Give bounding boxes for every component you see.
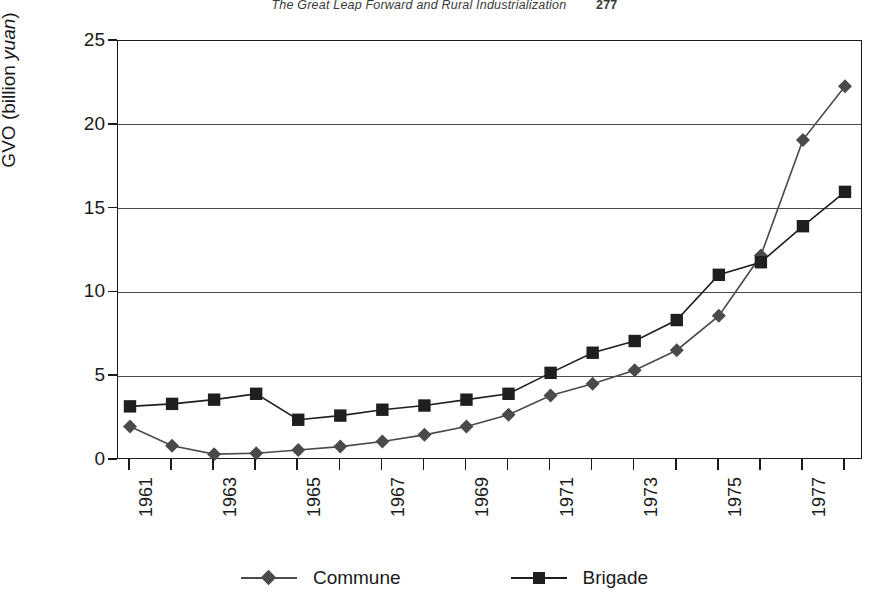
data-point-square xyxy=(292,414,304,426)
legend-item-commune[interactable]: Commune xyxy=(241,567,401,589)
data-point-square xyxy=(334,409,346,421)
x-axis-tick-mark xyxy=(507,459,509,470)
series-line xyxy=(130,192,845,420)
data-point-square xyxy=(124,400,136,412)
y-axis-title-text-start: GVO (billion xyxy=(0,60,19,168)
x-axis-tick-mark xyxy=(254,459,256,470)
data-point-diamond xyxy=(544,388,558,402)
data-point-diamond xyxy=(838,79,852,93)
data-point-square xyxy=(502,388,514,400)
data-point-square xyxy=(418,399,430,411)
y-axis-tick-mark xyxy=(108,207,117,209)
series-line xyxy=(130,86,845,454)
x-axis-tick-label: 1975 xyxy=(725,477,746,517)
x-axis-tick-mark xyxy=(381,459,383,470)
data-point-square xyxy=(460,393,472,405)
y-axis-tick-label: 20 xyxy=(57,113,105,135)
legend-label: Brigade xyxy=(583,567,649,589)
y-axis-tick-mark xyxy=(108,123,117,125)
legend-marker-diamond-icon xyxy=(261,570,277,586)
y-axis-title-text-end: ) xyxy=(0,12,19,18)
series-commune xyxy=(123,79,852,461)
y-axis-tick-mark xyxy=(108,39,117,41)
data-point-square xyxy=(839,186,851,198)
data-point-square xyxy=(629,335,641,347)
x-axis-tick-mark xyxy=(339,459,341,470)
y-axis-tick-label: 5 xyxy=(57,364,105,386)
data-point-diamond xyxy=(333,440,347,454)
plot-area xyxy=(117,40,862,459)
y-axis-tick-mark xyxy=(108,458,117,460)
data-series-layer xyxy=(118,41,863,460)
data-point-square xyxy=(250,388,262,400)
page-canvas: The Great Leap Forward and Rural Industr… xyxy=(0,0,889,606)
y-axis-tick-label: 25 xyxy=(57,29,105,51)
x-axis-tick-mark xyxy=(170,459,172,470)
x-axis-tick-mark xyxy=(717,459,719,470)
y-axis-tick-mark xyxy=(108,291,117,293)
data-point-diamond xyxy=(417,428,431,442)
y-axis-tick-label: 15 xyxy=(57,197,105,219)
y-axis-tick-mark xyxy=(108,374,117,376)
line-chart: GVO (billion yuan) 0510152025 1961196319… xyxy=(0,0,889,606)
data-point-square xyxy=(208,393,220,405)
data-point-diamond xyxy=(628,363,642,377)
data-point-square xyxy=(713,269,725,281)
data-point-diamond xyxy=(249,446,263,460)
data-point-square xyxy=(166,398,178,410)
x-axis-tick-mark xyxy=(465,459,467,470)
y-axis-tick-label: 10 xyxy=(57,280,105,302)
y-axis-tick-label: 0 xyxy=(57,448,105,470)
data-point-diamond xyxy=(123,419,137,433)
data-point-diamond xyxy=(586,377,600,391)
data-point-diamond xyxy=(207,447,221,461)
x-axis-tick-label: 1963 xyxy=(220,477,241,517)
data-point-diamond xyxy=(375,435,389,449)
data-point-square xyxy=(797,220,809,232)
series-brigade xyxy=(124,186,851,426)
legend-swatch-square-icon xyxy=(511,571,567,585)
x-axis-tick-label: 1971 xyxy=(557,477,578,517)
data-point-square xyxy=(376,404,388,416)
legend-swatch-diamond-icon xyxy=(241,571,297,585)
x-axis-tick-mark xyxy=(633,459,635,470)
chart-legend: CommuneBrigade xyxy=(0,558,889,598)
x-axis-tick-label: 1967 xyxy=(388,477,409,517)
x-axis-tick-label: 1973 xyxy=(641,477,662,517)
x-axis-tick-mark xyxy=(423,459,425,470)
x-axis-tick-mark xyxy=(212,459,214,470)
x-axis-tick-mark xyxy=(591,459,593,470)
x-axis-tick-mark xyxy=(801,459,803,470)
legend-item-brigade[interactable]: Brigade xyxy=(511,567,649,589)
data-point-square xyxy=(755,256,767,268)
x-axis-tick-label: 1977 xyxy=(809,477,830,517)
x-axis-tick-mark xyxy=(759,459,761,470)
x-axis-tick-mark xyxy=(675,459,677,470)
legend-marker-square-icon xyxy=(533,572,545,584)
data-point-diamond xyxy=(459,419,473,433)
x-axis-tick-mark xyxy=(843,459,845,470)
data-point-diamond xyxy=(291,443,305,457)
x-axis-tick-label: 1965 xyxy=(304,477,325,517)
x-axis-tick-mark xyxy=(128,459,130,470)
data-point-diamond xyxy=(502,408,516,422)
data-point-diamond xyxy=(796,133,810,147)
y-axis-title-unit: yuan xyxy=(0,19,19,60)
data-point-square xyxy=(586,347,598,359)
x-axis-tick-mark xyxy=(296,459,298,470)
data-point-diamond xyxy=(165,439,179,453)
y-axis-title: GVO (billion yuan) xyxy=(0,0,20,250)
x-axis-tick-label: 1969 xyxy=(472,477,493,517)
data-point-square xyxy=(544,367,556,379)
legend-label: Commune xyxy=(313,567,401,589)
data-point-square xyxy=(671,314,683,326)
x-axis-tick-mark xyxy=(549,459,551,470)
x-axis-tick-label: 1961 xyxy=(136,477,157,517)
